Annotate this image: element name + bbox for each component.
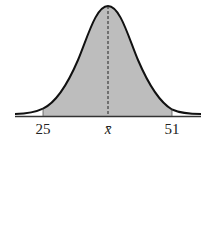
tick-label-25: 25 [36, 122, 51, 137]
tick-label-51: 51 [165, 122, 180, 137]
tick-label-mean: x̄ [105, 122, 112, 137]
